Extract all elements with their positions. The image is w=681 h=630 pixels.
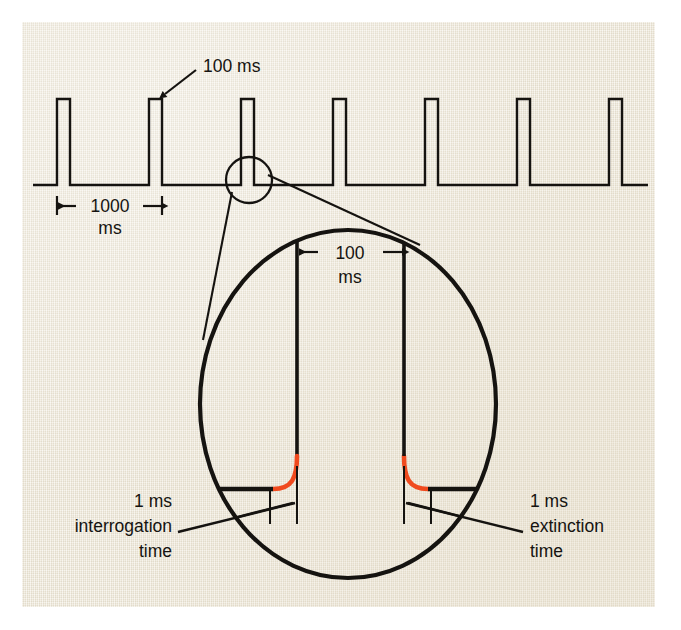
magnified-left-edge-rounded-red xyxy=(273,456,297,489)
interrogation-label-line1: 1 ms xyxy=(134,491,172,511)
magnified-gap-dimension: 100 ms xyxy=(299,243,402,287)
pulse-width-label: 100 ms xyxy=(203,56,261,76)
extinction-leader-line xyxy=(406,503,523,532)
pulse-width-annotation: 100 ms xyxy=(165,56,261,94)
magnifier-source-circle xyxy=(226,157,272,203)
figure-root: 100 ms 1000 ms xyxy=(0,0,681,630)
magnified-right-edge-rounded-red xyxy=(404,456,428,489)
pulse-timing-diagram: 100 ms 1000 ms xyxy=(0,0,681,630)
pulse-width-arrow-icon xyxy=(165,70,196,94)
interrogation-leader-line xyxy=(178,503,295,532)
extinction-label-line3: time xyxy=(530,541,563,561)
extinction-label-line2: extinction xyxy=(530,516,604,536)
extinction-time-annotation: 1 ms extinction time xyxy=(406,491,604,561)
interrogation-time-annotation: 1 ms interrogation time xyxy=(75,491,295,561)
pulse-train-waveform xyxy=(33,99,648,185)
pulse-period-annotation: 1000 ms xyxy=(57,196,162,238)
interrogation-label-line2: interrogation xyxy=(75,516,172,536)
pulse-train-group xyxy=(33,99,648,185)
pulse-period-units: ms xyxy=(98,218,122,238)
magnified-gap-label: 100 xyxy=(335,243,364,263)
magnified-gap-units: ms xyxy=(338,267,362,287)
pulse-period-label: 1000 xyxy=(91,196,130,216)
extinction-label-line1: 1 ms xyxy=(530,491,568,511)
interrogation-label-line3: time xyxy=(139,541,172,561)
